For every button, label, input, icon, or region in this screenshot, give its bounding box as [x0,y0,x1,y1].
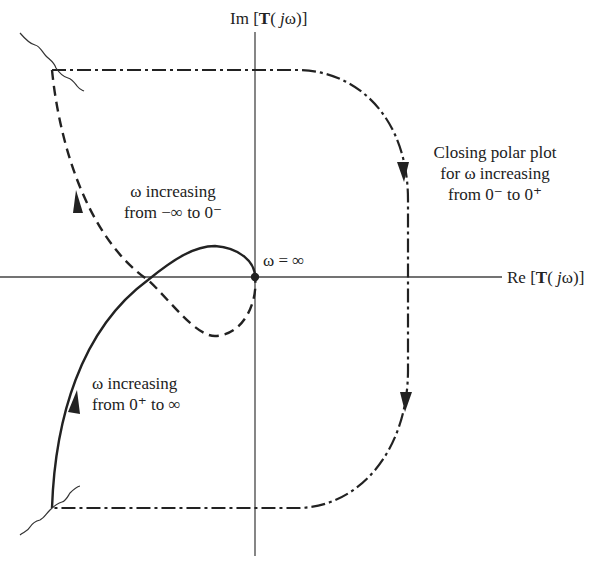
negative-branch-label: ω increasing from −∞ to 0⁻ [98,181,248,223]
imaginary-axis-label: Im [T( jω)] [230,8,307,29]
origin-point [251,273,259,281]
closing-arrow-bottom-icon [400,392,412,412]
closing-arrow-top-icon [397,162,409,182]
negative-branch-arrow-icon [73,190,83,213]
closing-contour-label: Closing polar plot for ω increasing from… [410,142,580,205]
closing-contour-path [52,70,408,508]
positive-branch-label: ω increasing from 0⁺ to ∞ [92,373,181,415]
break-mark-top-icon [20,33,84,91]
real-axis-label: Re [T( jω)] [507,267,584,288]
break-mark-bottom-icon [20,486,80,535]
omega-infinity-label: ω = ∞ [263,250,304,271]
